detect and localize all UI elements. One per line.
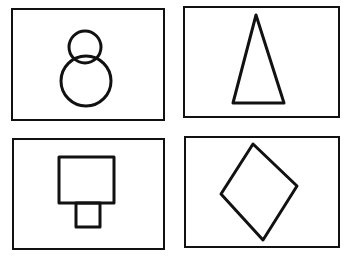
shapes-figure (0, 0, 350, 258)
panel-top-right (184, 7, 339, 117)
panel-bottom-left (13, 139, 164, 249)
small-rectangle-shape (76, 203, 100, 227)
panel-bottom-right (185, 137, 339, 247)
diamond-shape (221, 144, 297, 240)
triangle-shape (233, 15, 284, 103)
panel-top-left (12, 9, 164, 120)
panel-frame (12, 9, 164, 120)
square-shape (59, 157, 114, 203)
panel-frame (184, 7, 339, 117)
